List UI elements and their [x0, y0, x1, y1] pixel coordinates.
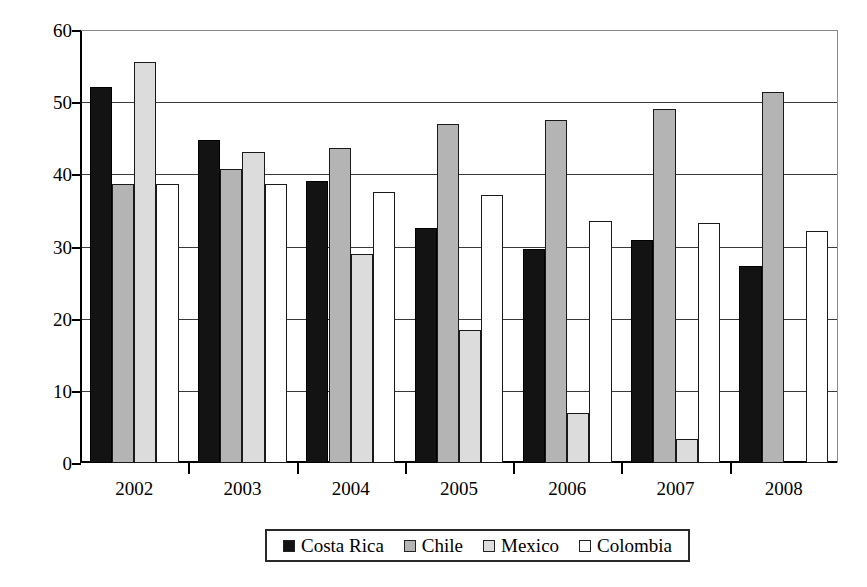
bar-costa-rica-2002 — [90, 87, 112, 463]
x-tick-label-2003: 2003 — [223, 478, 261, 500]
legend-swatch-icon — [404, 540, 416, 552]
bar-costa-rica-2003 — [198, 140, 220, 463]
bar-colombia-2008 — [806, 231, 828, 463]
chart-legend: Costa RicaChileMexicoColombia — [265, 529, 690, 562]
legend-label: Costa Rica — [301, 536, 384, 555]
y-tick-label: 30 — [26, 237, 72, 256]
bar-group-2004 — [297, 30, 405, 463]
bar-group-2005 — [405, 30, 513, 463]
y-tick-label: 20 — [26, 309, 72, 328]
x-axis-tick-labels: 2002200320042005200620072008 — [80, 478, 838, 506]
bar-mexico-2002 — [134, 62, 156, 463]
bar-chile-2004 — [329, 148, 351, 463]
legend-label: Chile — [422, 536, 463, 555]
y-tick-label: 40 — [26, 165, 72, 184]
y-tick-label: 10 — [26, 381, 72, 400]
x-tick-label-2007: 2007 — [657, 478, 695, 500]
bar-group-2002 — [80, 30, 188, 463]
bar-chile-2006 — [545, 120, 567, 464]
bar-mexico-2005 — [459, 330, 481, 463]
legend-item-costa-rica[interactable]: Costa Rica — [283, 536, 384, 555]
x-tick-label-2008: 2008 — [765, 478, 803, 500]
bar-costa-rica-2007 — [631, 240, 653, 463]
bar-group-2007 — [621, 30, 729, 463]
bar-group-2006 — [513, 30, 621, 463]
bar-mexico-2004 — [351, 254, 373, 463]
y-tick-label: 50 — [26, 93, 72, 112]
bar-chile-2002 — [112, 184, 134, 463]
bars-layer — [80, 30, 838, 463]
legend-label: Colombia — [597, 536, 672, 555]
x-tick-label-2005: 2005 — [440, 478, 478, 500]
y-tick-mark — [72, 30, 81, 32]
x-tick-label-2002: 2002 — [115, 478, 153, 500]
x-tick-mark — [513, 463, 515, 474]
bar-chile-2003 — [220, 169, 242, 463]
bar-mexico-2007 — [676, 439, 698, 463]
y-tick-label: 60 — [26, 21, 72, 40]
bar-costa-rica-2004 — [306, 181, 328, 463]
y-tick-mark — [72, 463, 81, 465]
y-axis-tick-labels: 0102030405060 — [26, 30, 72, 463]
x-tick-mark — [621, 463, 623, 474]
y-tick-mark — [72, 319, 81, 321]
x-tick-mark — [730, 463, 732, 474]
y-tick-mark — [72, 174, 81, 176]
x-tick-label-2006: 2006 — [548, 478, 586, 500]
x-tick-mark — [297, 463, 299, 474]
bar-group-2008 — [730, 30, 838, 463]
bar-colombia-2004 — [373, 192, 395, 463]
y-tick-mark — [72, 391, 81, 393]
bar-group-2003 — [188, 30, 296, 463]
bar-colombia-2003 — [265, 184, 287, 463]
legend-item-colombia[interactable]: Colombia — [579, 536, 672, 555]
x-tick-mark — [405, 463, 407, 474]
bar-colombia-2007 — [698, 223, 720, 463]
y-tick-mark — [72, 247, 81, 249]
legend-item-chile[interactable]: Chile — [404, 536, 463, 555]
bar-colombia-2005 — [481, 195, 503, 463]
bar-chile-2007 — [653, 109, 675, 463]
x-tick-label-2004: 2004 — [332, 478, 370, 500]
bar-costa-rica-2008 — [739, 266, 761, 463]
bar-colombia-2006 — [589, 221, 611, 463]
y-tick-mark — [72, 102, 81, 104]
bar-mexico-2006 — [567, 413, 589, 463]
x-axis-tick-marks — [80, 463, 838, 475]
y-tick-label: 0 — [26, 454, 72, 473]
legend-swatch-icon — [579, 540, 591, 552]
bar-costa-rica-2005 — [415, 228, 437, 463]
x-tick-mark — [188, 463, 190, 474]
bar-mexico-2003 — [242, 152, 264, 463]
bar-chile-2005 — [437, 124, 459, 463]
bar-costa-rica-2006 — [523, 249, 545, 463]
legend-swatch-icon — [283, 540, 295, 552]
bar-chile-2008 — [762, 92, 784, 463]
legend-item-mexico[interactable]: Mexico — [483, 536, 559, 555]
bar-colombia-2002 — [156, 184, 178, 463]
legend-swatch-icon — [483, 540, 495, 552]
legend-label: Mexico — [501, 536, 559, 555]
